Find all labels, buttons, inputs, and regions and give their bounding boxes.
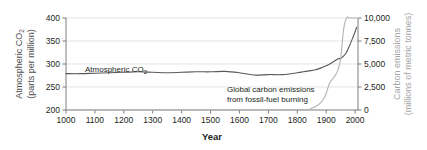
x-tick-label: 1600 (230, 115, 249, 125)
x-tick-label: 1700 (259, 115, 278, 125)
left-tick-label: 400 (46, 13, 60, 23)
right-axis-ticks: 02,5005,0007,50010,000 (358, 13, 390, 115)
x-tick-label: 1000 (57, 115, 76, 125)
x-tick-label: 1800 (288, 115, 307, 125)
left-axis-ticks: 200250300350400 (46, 13, 66, 115)
right-tick-label: 5,000 (364, 59, 386, 69)
x-tick-label: 1400 (172, 115, 191, 125)
gridlines-group (66, 18, 358, 87)
emissions-line (66, 17, 357, 110)
data-series-group (66, 17, 357, 110)
left-tick-label: 200 (46, 105, 60, 115)
right-axis-title: Carbon emissions(millions of metric tonn… (392, 13, 413, 116)
chart-canvas: 200250300350400 02,5005,0007,50010,000 1… (0, 0, 427, 150)
right-tick-label: 0 (364, 105, 369, 115)
right-tick-label: 7,500 (364, 36, 386, 46)
right-tick-label: 2,500 (364, 82, 386, 92)
left-tick-label: 250 (46, 82, 60, 92)
climate-chart: 200250300350400 02,5005,0007,50010,000 1… (0, 0, 427, 150)
co2-series-label: Atmospheric CO2 (85, 65, 148, 75)
emissions-series-label: Global carbon emissionsfrom fossil-fuel … (227, 85, 315, 104)
x-axis-title: Year (202, 131, 222, 142)
x-axis-ticks: 1000110012001300140015001600170018001900… (57, 110, 365, 125)
x-tick-label: 1900 (317, 115, 336, 125)
left-tick-label: 350 (46, 36, 60, 46)
x-tick-label: 1100 (86, 115, 105, 125)
right-tick-label: 10,000 (364, 13, 390, 23)
annotations-group: Atmospheric CO2Global carbon emissionsfr… (85, 65, 315, 104)
left-tick-label: 300 (46, 59, 60, 69)
x-tick-label: 1200 (114, 115, 133, 125)
left-axis-title: Atmospheric CO2(parts per million) (14, 29, 36, 99)
x-tick-label: 2000 (346, 115, 365, 125)
x-tick-label: 1500 (201, 115, 220, 125)
x-tick-label: 1300 (143, 115, 162, 125)
